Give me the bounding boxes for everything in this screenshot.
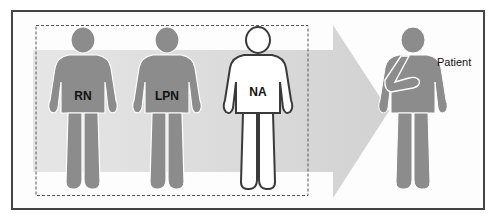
lpn-label: LPN (155, 89, 179, 103)
diagram-canvas (0, 0, 494, 218)
patient-label: Patient (437, 56, 471, 68)
na-label: NA (249, 85, 266, 99)
patient-figure-icon (379, 27, 448, 189)
rn-label: RN (74, 89, 91, 103)
